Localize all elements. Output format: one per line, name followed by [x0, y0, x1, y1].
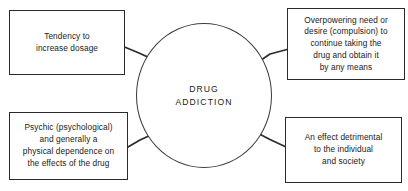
node-box-overpowering-need[interactable]: Overpowering need or desire (compulsion)…: [287, 8, 405, 80]
node-label: Psychic (psychological) and generally a …: [18, 122, 119, 169]
node-box-effect-detrimental[interactable]: An effect detrimental to the individual …: [285, 117, 402, 183]
drug-addiction-diagram: Tendency to increase dosage Overpowering…: [0, 0, 408, 191]
node-box-psychic-physical-dependence[interactable]: Psychic (psychological) and generally a …: [9, 112, 128, 180]
center-node-label: DRUG ADDICTION: [175, 83, 232, 109]
node-box-tendency-increase-dosage[interactable]: Tendency to increase dosage: [9, 10, 125, 75]
node-label: Tendency to increase dosage: [31, 31, 103, 55]
center-node-drug-addiction[interactable]: DRUG ADDICTION: [136, 23, 272, 168]
node-label: Overpowering need or desire (compulsion)…: [299, 15, 393, 74]
node-label: An effect detrimental to the individual …: [300, 132, 388, 167]
